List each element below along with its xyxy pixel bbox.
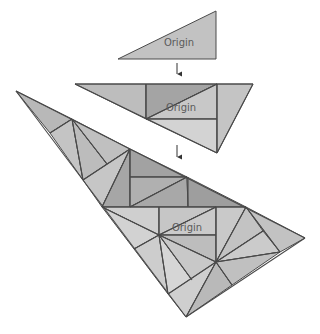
diagram-canvas: Origin Origin Origin bbox=[0, 0, 320, 334]
origin-label-stage-2: Origin bbox=[166, 102, 196, 113]
triangle-subdivision-diagram: Origin Origin Origin bbox=[0, 0, 320, 334]
dark-right bbox=[187, 177, 246, 207]
origin-triangle bbox=[118, 11, 216, 59]
stage-1-figure bbox=[118, 11, 216, 59]
origin-label-stage-1: Origin bbox=[164, 37, 194, 48]
origin-label-stage-3: Origin bbox=[172, 222, 202, 233]
